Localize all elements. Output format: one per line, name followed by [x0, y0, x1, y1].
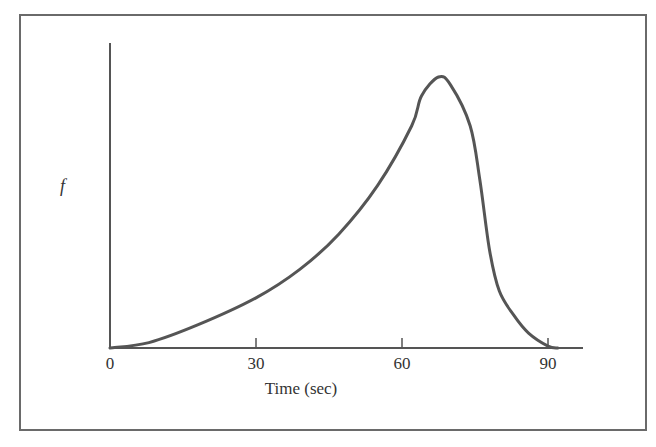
- x-tick-labels: 0306090: [106, 354, 557, 373]
- chart-plot: 0306090 f Time (sec): [0, 0, 656, 447]
- data-curve: [110, 76, 558, 348]
- x-tick-label: 60: [394, 354, 411, 373]
- x-ticks: [256, 338, 548, 348]
- x-tick-label: 90: [540, 354, 557, 373]
- y-axis-label: f: [60, 176, 68, 196]
- x-tick-label: 0: [106, 354, 115, 373]
- x-axis-label: Time (sec): [265, 379, 338, 398]
- x-tick-label: 30: [248, 354, 265, 373]
